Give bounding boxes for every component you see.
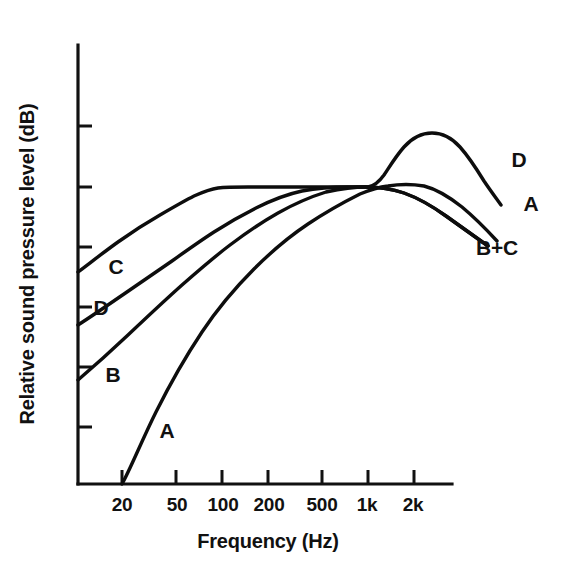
x-tick-label-2k: 2k [403, 494, 424, 515]
y-axis-title: Relative sound pressure level (dB) [16, 103, 38, 424]
curve-label-A-right: A [524, 192, 539, 215]
curve-labels-left: C D B A [94, 255, 175, 442]
y-tick-marks [78, 126, 92, 427]
curve-label-C-left: C [109, 255, 124, 278]
axes-group [78, 45, 452, 484]
curve-A [122, 185, 497, 485]
curve-label-D-left: D [94, 296, 109, 319]
x-tick-marks [122, 470, 414, 484]
curves-group [78, 133, 501, 484]
x-axis-title: Frequency (Hz) [197, 530, 339, 552]
curve-label-BC-right: B+C [476, 236, 518, 259]
curve-label-B-left: B [106, 363, 121, 386]
x-tick-label-20: 20 [112, 494, 133, 515]
x-tick-label-200: 200 [254, 494, 285, 515]
x-tick-label-500: 500 [307, 494, 338, 515]
curve-label-A-left: A [160, 419, 175, 442]
x-tick-label-50: 50 [167, 494, 188, 515]
curve-D [78, 133, 501, 325]
curve-label-D-right: D [512, 148, 527, 171]
figure-container: 20 50 100 200 500 1k 2k Frequency (Hz) R… [0, 0, 571, 563]
x-tick-label-100: 100 [208, 494, 239, 515]
weighting-curves-chart: 20 50 100 200 500 1k 2k Frequency (Hz) R… [0, 0, 571, 563]
curve-C [78, 187, 488, 272]
x-tick-labels: 20 50 100 200 500 1k 2k [112, 494, 424, 515]
x-tick-label-1k: 1k [357, 494, 378, 515]
curve-labels-right: D A B+C [476, 148, 539, 259]
